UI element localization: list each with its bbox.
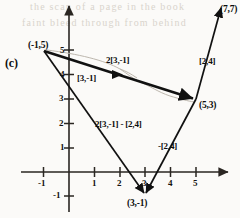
vector-label-neg-b: -[2,4] <box>158 142 177 151</box>
vector-a-midpoint-arrow <box>112 70 123 79</box>
vector-label-resultant: 2[3,-1] - [2,4] <box>95 120 141 129</box>
y-tick-label-2: 2 <box>59 119 64 128</box>
point-label-5-3: (5,3) <box>199 101 216 111</box>
point-label-neg1-5: (-1,5) <box>28 41 48 51</box>
vector-b <box>196 8 221 99</box>
y-tick-label-1: 1 <box>60 143 65 152</box>
figure-panel: the scan of a page in the book faint ble… <box>0 0 240 218</box>
y-tick-label-3: 3 <box>59 94 64 103</box>
y-tick-label-5: 5 <box>60 46 65 55</box>
point-label-7-7: (7,7) <box>220 5 237 15</box>
x-tick-label-2: 2 <box>117 179 122 188</box>
x-tick-label-5: 5 <box>193 179 198 188</box>
y-tick-label-4: 4 <box>60 70 65 79</box>
vector-label-b: [2,4] <box>199 57 215 66</box>
x-tick-label-1: 1 <box>92 179 97 188</box>
panel-label: (c) <box>5 57 18 69</box>
x-tick-label-3: 3 <box>142 179 147 188</box>
y-tick-label-neg1: -1 <box>53 191 61 200</box>
x-tick-label-neg1: -1 <box>38 179 46 188</box>
point-label-3-neg1: (3,-1) <box>127 199 147 209</box>
vector-label-a: [3,-1] <box>77 74 96 83</box>
x-tick-label-4: 4 <box>168 179 173 188</box>
vector-label-2a: 2[3,-1] <box>106 56 129 65</box>
